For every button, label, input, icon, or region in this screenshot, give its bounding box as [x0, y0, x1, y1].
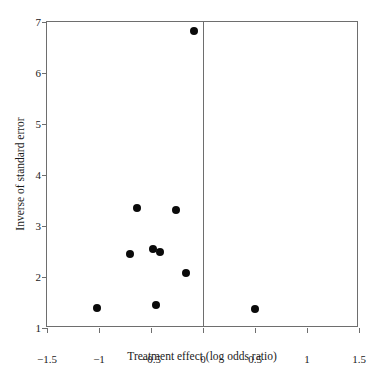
- y-tick-label: 1: [27, 323, 41, 333]
- y-tick: [42, 226, 47, 227]
- y-tick-label: 3: [27, 221, 41, 231]
- data-point: [126, 250, 134, 258]
- x-tick: [255, 328, 256, 333]
- y-tick: [42, 175, 47, 176]
- x-tick: [359, 328, 360, 333]
- x-tick: [203, 328, 204, 333]
- y-axis-title: Inverse of standard error: [14, 21, 28, 327]
- data-point: [190, 27, 198, 35]
- data-point: [93, 304, 101, 312]
- y-tick-label: 2: [27, 272, 41, 282]
- x-axis-title: Treatment effect (log odds ratio): [46, 350, 358, 362]
- y-tick-label: 6: [27, 68, 41, 78]
- x-tick: [307, 328, 308, 333]
- null-effect-reference-line: [203, 22, 204, 326]
- data-point: [133, 204, 141, 212]
- y-tick-label: 4: [27, 170, 41, 180]
- y-tick: [42, 124, 47, 125]
- data-point: [152, 301, 160, 309]
- data-point: [172, 206, 180, 214]
- y-tick-label: 7: [27, 17, 41, 27]
- x-tick: [47, 328, 48, 333]
- data-point: [251, 305, 259, 313]
- y-tick: [42, 73, 47, 74]
- y-tick: [42, 328, 47, 329]
- data-point: [156, 248, 164, 256]
- funnel-plot-figure: Inverse of standard error −1.5−1−0.500.5…: [0, 0, 381, 378]
- x-tick: [151, 328, 152, 333]
- plot-area: −1.5−1−0.500.511.5 1234567: [46, 21, 358, 327]
- data-point: [182, 269, 190, 277]
- x-tick: [99, 328, 100, 333]
- y-tick: [42, 277, 47, 278]
- y-tick: [42, 22, 47, 23]
- y-tick-label: 5: [27, 119, 41, 129]
